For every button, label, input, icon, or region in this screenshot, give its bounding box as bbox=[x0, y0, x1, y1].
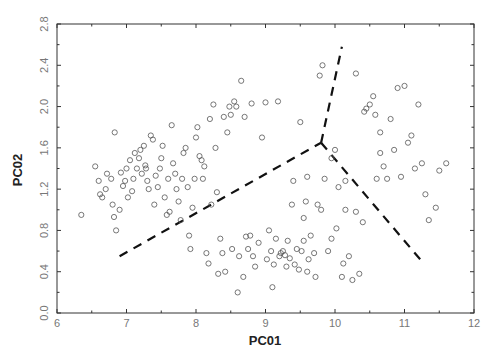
data-point bbox=[305, 269, 310, 274]
data-point bbox=[237, 254, 242, 259]
data-point bbox=[409, 133, 414, 138]
data-point bbox=[360, 220, 365, 225]
data-point bbox=[284, 264, 289, 269]
data-point bbox=[160, 143, 165, 148]
data-point bbox=[204, 251, 209, 256]
y-tick-label: 0.8 bbox=[38, 223, 50, 238]
data-point bbox=[346, 254, 351, 259]
data-point bbox=[235, 290, 240, 295]
data-point bbox=[373, 112, 378, 117]
data-point bbox=[378, 150, 383, 155]
data-point bbox=[143, 166, 148, 171]
data-point bbox=[176, 199, 181, 204]
data-point bbox=[230, 246, 235, 251]
data-point bbox=[234, 104, 239, 109]
data-point bbox=[227, 104, 232, 109]
data-point bbox=[110, 202, 115, 207]
y-tick-label: 2.4 bbox=[38, 58, 50, 73]
data-point bbox=[188, 246, 193, 251]
data-point bbox=[419, 161, 424, 166]
data-point bbox=[146, 187, 151, 192]
data-point bbox=[242, 114, 247, 119]
data-point bbox=[301, 215, 306, 220]
data-point bbox=[405, 140, 410, 145]
x-tick-label: 7 bbox=[123, 317, 129, 329]
data-point bbox=[250, 254, 255, 259]
data-point bbox=[162, 195, 167, 200]
data-point bbox=[353, 209, 358, 214]
data-point bbox=[139, 171, 144, 176]
x-tick-label: 8 bbox=[193, 317, 199, 329]
data-point bbox=[150, 137, 155, 142]
data-point bbox=[228, 112, 233, 117]
data-point bbox=[326, 249, 331, 254]
data-point bbox=[207, 116, 212, 121]
data-point bbox=[112, 130, 117, 135]
data-point bbox=[322, 176, 327, 181]
data-point bbox=[319, 207, 324, 212]
data-point bbox=[426, 218, 431, 223]
data-point bbox=[171, 161, 176, 166]
data-point bbox=[109, 176, 114, 181]
data-point bbox=[273, 236, 278, 241]
data-point bbox=[211, 102, 216, 107]
data-point bbox=[167, 209, 172, 214]
data-point bbox=[117, 207, 122, 212]
x-tick-labels: 6789101112 bbox=[54, 317, 480, 329]
data-point bbox=[221, 114, 226, 119]
data-point bbox=[93, 164, 98, 169]
data-point bbox=[183, 145, 188, 150]
data-point bbox=[239, 78, 244, 83]
data-point bbox=[402, 83, 407, 88]
data-point bbox=[289, 202, 294, 207]
dashed-boundary-line bbox=[321, 47, 342, 143]
data-points bbox=[79, 63, 449, 295]
data-point bbox=[127, 158, 132, 163]
data-point bbox=[145, 178, 150, 183]
data-point bbox=[120, 183, 125, 188]
data-point bbox=[416, 102, 421, 107]
data-point bbox=[343, 207, 348, 212]
axis-ticks bbox=[57, 24, 474, 313]
data-point bbox=[433, 205, 438, 210]
data-point bbox=[287, 256, 292, 261]
data-point bbox=[263, 100, 268, 105]
y-tick-label: 0.4 bbox=[38, 264, 50, 279]
data-point bbox=[164, 212, 169, 217]
data-point bbox=[104, 171, 109, 176]
y-tick-label: 1.6 bbox=[38, 140, 50, 155]
data-point bbox=[317, 73, 322, 78]
data-point bbox=[131, 176, 136, 181]
data-point bbox=[159, 156, 164, 161]
data-point bbox=[398, 174, 403, 179]
data-point bbox=[374, 176, 379, 181]
data-point bbox=[256, 240, 261, 245]
data-point bbox=[343, 178, 348, 183]
data-point bbox=[141, 143, 146, 148]
y-tick-label: 2.8 bbox=[38, 16, 50, 31]
data-point bbox=[336, 185, 341, 190]
data-point bbox=[299, 249, 304, 254]
data-point bbox=[392, 147, 397, 152]
data-point bbox=[253, 264, 258, 269]
y-axis-title: PC02 bbox=[10, 154, 25, 187]
data-point bbox=[312, 251, 317, 256]
data-point bbox=[232, 99, 237, 104]
data-point bbox=[136, 156, 141, 161]
data-point bbox=[130, 189, 135, 194]
data-point bbox=[315, 202, 320, 207]
data-point bbox=[125, 195, 130, 200]
data-point bbox=[216, 271, 221, 276]
x-tick-label: 6 bbox=[54, 317, 60, 329]
data-point bbox=[350, 277, 355, 282]
data-point bbox=[285, 238, 290, 243]
data-point bbox=[412, 166, 417, 171]
data-point bbox=[378, 130, 383, 135]
data-point bbox=[199, 158, 204, 163]
data-point bbox=[202, 164, 207, 169]
data-point bbox=[423, 192, 428, 197]
data-point bbox=[303, 199, 308, 204]
data-point bbox=[334, 226, 339, 231]
data-point bbox=[332, 147, 337, 152]
data-point bbox=[173, 171, 178, 176]
